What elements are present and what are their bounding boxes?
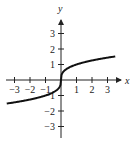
x-tick-label: −3 [9,84,20,95]
x-tick-label: −2 [25,84,36,95]
y-axis-label: y [57,3,63,14]
x-axis-label: x [124,75,130,86]
y-tick-label: −2 [44,106,55,117]
y-tick-label: 3 [50,28,55,39]
y-tick-label: −3 [44,121,55,132]
y-tick-label: 1 [50,59,55,70]
x-tick-label: 3 [105,84,110,95]
chart: −3−2−1123−3−2−1123 x y [0,0,137,146]
y-tick-label: 2 [50,44,55,55]
x-tick-label: 2 [90,84,95,95]
axes [6,20,121,138]
x-tick-label: 1 [74,84,79,95]
